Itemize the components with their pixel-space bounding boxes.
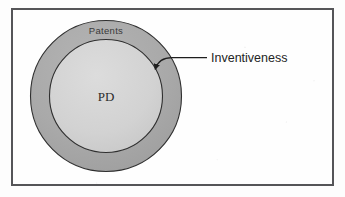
figure-canvas: Patents PD Inventiveness	[0, 0, 345, 197]
outer-circle-label: Patents	[89, 25, 123, 36]
inner-circle-label: PD	[98, 89, 115, 104]
inventiveness-label: Inventiveness	[211, 51, 287, 65]
concentric-circle-diagram: Patents PD Inventiveness	[0, 0, 345, 197]
